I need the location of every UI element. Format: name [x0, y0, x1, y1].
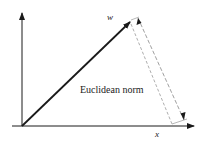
diagram-caption: Euclidean norm [80, 84, 144, 95]
projection-line [131, 24, 172, 124]
norm-extension-bottom [172, 119, 187, 124]
norm-measure-line [138, 18, 184, 120]
x-axis-label: x [155, 129, 159, 139]
vector-w [22, 22, 130, 126]
diagram-canvas [0, 0, 206, 148]
vector-label-w: w [107, 12, 113, 22]
